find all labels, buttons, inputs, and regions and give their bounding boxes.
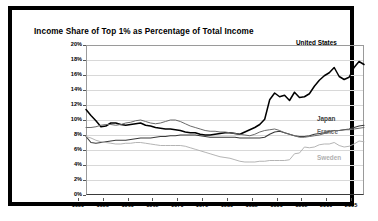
x-axis-tick-label: 1950 (65, 203, 91, 209)
series-label-japan: Japan (317, 116, 335, 122)
x-axis-tick-label: 1990 (264, 203, 290, 209)
x-axis-tick-label: 1975 (189, 203, 215, 209)
x-axis-tick-mark (177, 198, 178, 201)
series-label-united-states: United States (296, 40, 337, 46)
x-axis-tick-label: 1980 (214, 203, 240, 209)
x-axis-tick-label: 2000 (313, 203, 339, 209)
y-axis-tick-label: 4% (52, 162, 82, 168)
x-axis-tick-mark (128, 198, 129, 201)
x-axis-tick-label: 1995 (288, 203, 314, 209)
x-axis-tick-mark (277, 198, 278, 201)
x-axis-tick-label: 1970 (164, 203, 190, 209)
x-axis-tick-mark (78, 198, 79, 201)
series-label-sweden: Sweden (317, 155, 341, 161)
x-axis-tick-label: 1955 (90, 203, 116, 209)
y-axis-tick-label: 18% (52, 57, 82, 63)
x-axis-tick-mark (252, 198, 253, 201)
series-label-france: France (317, 129, 338, 135)
chart-frame: Income Share of Top 1% as Percentage of … (8, 6, 354, 206)
y-axis-tick-label: 20% (52, 42, 82, 48)
x-axis-tick-label: 1985 (239, 203, 265, 209)
y-axis-tick-label: 12% (52, 102, 82, 108)
x-axis-tick-label: 1960 (115, 203, 141, 209)
y-axis-tick-label: 0% (52, 192, 82, 198)
x-axis-tick-mark (103, 198, 104, 201)
y-axis-tick-mark (83, 195, 86, 196)
x-axis-tick-mark (227, 198, 228, 201)
page-title: Income Share of Top 1% as Percentage of … (34, 27, 254, 36)
x-axis-tick-mark (152, 198, 153, 201)
x-axis-tick-mark (301, 198, 302, 201)
x-axis-tick-mark (326, 198, 327, 201)
y-axis-tick-label: 10% (52, 117, 82, 123)
x-axis-tick-mark (351, 198, 352, 201)
series-line-united-states (86, 62, 364, 136)
y-axis-tick-label: 14% (52, 87, 82, 93)
x-axis-tick-mark (202, 198, 203, 201)
y-axis-tick-label: 2% (52, 177, 82, 183)
y-axis-tick-label: 6% (52, 147, 82, 153)
y-axis-tick-label: 8% (52, 132, 82, 138)
y-axis: 20%18%16%14%12%10%8%6%4%2%0% (52, 40, 86, 202)
x-axis-tick-label: 1965 (139, 203, 165, 209)
x-axis: 1950195519601965197019751980198519901995… (12, 198, 372, 212)
x-axis-tick-label: 2005 (338, 203, 364, 209)
y-axis-tick-label: 16% (52, 72, 82, 78)
